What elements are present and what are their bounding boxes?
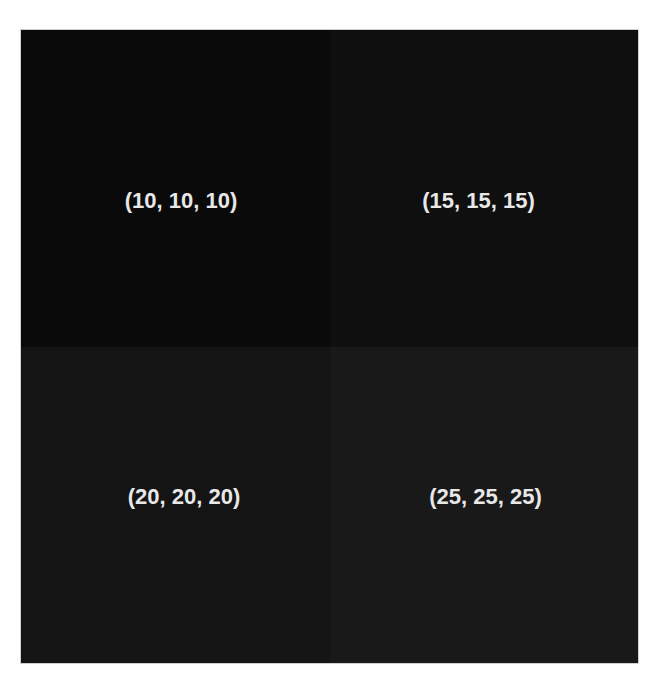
swatch-label: (10, 10, 10): [125, 188, 238, 214]
swatch-label: (25, 25, 25): [429, 484, 542, 510]
swatch-bottom-left: (20, 20, 20): [21, 347, 330, 664]
swatch-label: (15, 15, 15): [422, 188, 535, 214]
swatch-top-left: (10, 10, 10): [21, 30, 330, 347]
swatch-top-right: (15, 15, 15): [330, 30, 639, 347]
swatch-bottom-right: (25, 25, 25): [330, 347, 639, 664]
swatch-label: (20, 20, 20): [128, 484, 241, 510]
color-swatch-grid: (10, 10, 10) (15, 15, 15) (20, 20, 20) (…: [21, 30, 638, 663]
